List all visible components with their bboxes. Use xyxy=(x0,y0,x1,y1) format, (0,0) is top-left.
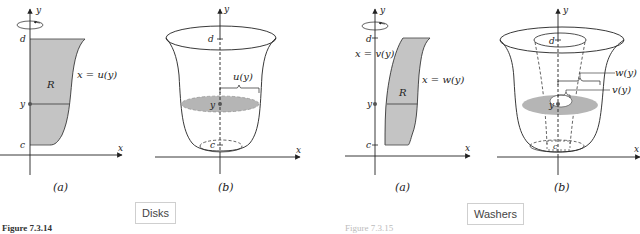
disks-tag: Disks xyxy=(135,202,176,224)
brace-w xyxy=(558,78,600,85)
washers-panel-b: y x d c y w(y) v(y) (b) xyxy=(497,5,640,194)
svg-text:d: d xyxy=(208,34,214,44)
svg-text:x = v(y): x = v(y) xyxy=(355,48,395,59)
svg-text:c: c xyxy=(210,140,215,150)
svg-text:y: y xyxy=(19,99,26,109)
svg-text:c: c xyxy=(366,140,371,150)
washers-caption: Figure 7.3.15 xyxy=(345,223,393,233)
washers-panel-a: y x d c y R x = v(y) x = w(y) (a) xyxy=(345,5,470,194)
svg-text:x: x xyxy=(296,145,301,155)
outer-top-ellipse xyxy=(500,27,624,53)
svg-text:y: y xyxy=(209,100,216,110)
svg-text:(a): (a) xyxy=(53,181,68,194)
svg-text:d: d xyxy=(366,34,372,44)
svg-text:(a): (a) xyxy=(395,181,410,194)
disks-panel-b: y x d c y u(y) (b) xyxy=(155,4,301,194)
svg-text:c: c xyxy=(553,142,558,151)
svg-text:c: c xyxy=(20,140,25,150)
figure-canvas: y x d c y R x = u(y) (a) y x d c y u(y) xyxy=(0,0,640,234)
svg-text:x: x xyxy=(118,143,123,153)
svg-text:u(y): u(y) xyxy=(233,71,253,82)
svg-text:y: y xyxy=(35,5,42,15)
svg-text:R: R xyxy=(398,87,407,98)
svg-text:y: y xyxy=(562,5,569,15)
svg-text:d: d xyxy=(20,34,26,44)
svg-text:x: x xyxy=(465,143,470,153)
svg-text:y: y xyxy=(379,5,386,15)
svg-text:y: y xyxy=(548,100,555,110)
svg-text:(b): (b) xyxy=(554,181,570,194)
brace-u xyxy=(220,85,259,93)
svg-text:x = u(y): x = u(y) xyxy=(77,69,117,80)
svg-text:(b): (b) xyxy=(218,181,234,194)
svg-text:R: R xyxy=(46,79,55,90)
top-ellipse xyxy=(166,26,276,50)
svg-text:y: y xyxy=(366,99,373,109)
washers-tag: Washers xyxy=(467,203,524,225)
svg-text:x = w(y): x = w(y) xyxy=(422,74,464,85)
svg-text:d: d xyxy=(549,36,555,46)
disks-caption: Figure 7.3.14 xyxy=(2,223,52,233)
svg-text:v(y): v(y) xyxy=(612,84,631,95)
svg-text:x: x xyxy=(634,144,639,154)
disks-panel-a: y x d c y R x = u(y) (a) xyxy=(0,5,123,194)
svg-text:w(y): w(y) xyxy=(615,67,637,78)
svg-text:y: y xyxy=(223,4,230,14)
